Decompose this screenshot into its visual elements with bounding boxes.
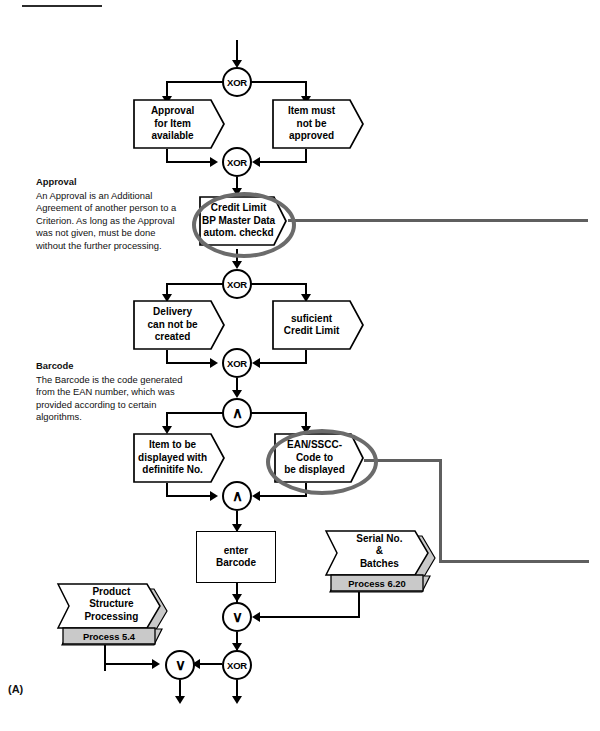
highlight-ellipse-credit-limit — [192, 192, 296, 258]
event-label-line-2: for Item — [154, 118, 191, 129]
flow-line-merge2-left — [166, 362, 214, 364]
function-label-line-1: enter — [224, 545, 248, 556]
annotation-approval: Approval An Approval is an Additional Ag… — [36, 176, 186, 253]
connector-xor-5: XOR — [222, 650, 252, 680]
event-label-line-2: can not be — [148, 319, 198, 330]
connector-xor-1: XOR — [222, 67, 252, 97]
connector-xor-4: XOR — [222, 348, 252, 378]
event-label-line-1: Approval — [151, 105, 194, 116]
annotation-barcode-body: The Barcode is the code generated from t… — [36, 374, 186, 424]
event-delivery-can-not-be-created: Delivery can not be created — [133, 300, 225, 350]
annotation-barcode: Barcode The Barcode is the code generate… — [36, 360, 186, 424]
arrow-merge-right — [252, 157, 260, 167]
function-label-line-2: Barcode — [216, 557, 256, 568]
event-label-line-1: suficient — [291, 313, 332, 324]
pif-label-line-2: & — [376, 545, 383, 556]
connector-or-2: ∨ — [165, 650, 195, 680]
arrow-merge2-right — [252, 358, 260, 368]
flow-line-product-to-or2 — [104, 663, 155, 665]
connector-and-2: ∧ — [222, 481, 252, 511]
process-interface-serial-no-batches: Serial No. & Batches Process 6.20 — [318, 528, 436, 598]
event-item-to-be-displayed: Item to be displayed with definitife No. — [133, 433, 225, 483]
event-label: Item must not be approved — [272, 99, 351, 149]
arrow-merge2-left — [210, 358, 218, 368]
connector-xor-1-label: XOR — [227, 77, 247, 88]
connector-or-1-label: ∨ — [232, 609, 243, 624]
process-interface-label: Serial No. & Batches — [337, 528, 422, 575]
annotation-barcode-heading: Barcode — [36, 360, 186, 373]
cross-reference-line-ean-h2 — [439, 560, 589, 563]
process-interface-process-number: Process 5.4 — [63, 628, 155, 644]
process-interface-label: Product Structure Processing — [69, 581, 154, 628]
connector-and-2-label: ∧ — [232, 488, 243, 503]
top-rule — [22, 5, 102, 7]
event-label-line-2: Credit Limit — [284, 325, 340, 336]
event-label-line-1: Item to be — [149, 439, 196, 450]
arrow-merge-left — [210, 157, 218, 167]
flow-line-merge-left — [166, 161, 214, 163]
flow-line-xor3-right — [250, 283, 307, 285]
corner-label: (A) — [8, 683, 23, 695]
event-label-line-3: created — [155, 331, 191, 342]
flow-line-serial-to-or1 — [259, 616, 360, 618]
connector-xor-2-label: XOR — [227, 157, 247, 168]
event-item-must-not-be-approved: Item must not be approved — [272, 99, 364, 149]
event-label-line-2: not be — [297, 118, 327, 129]
flow-line-merge3-left — [166, 495, 214, 497]
connector-xor-3-label: XOR — [227, 279, 247, 290]
arrow-merge3-left — [210, 491, 218, 501]
pif-label-line-2: Structure — [89, 598, 133, 609]
connector-xor-4-label: XOR — [227, 358, 247, 369]
function-enter-barcode: enter Barcode — [196, 531, 276, 583]
epc-diagram-canvas: Approval An Approval is an Additional Ag… — [0, 0, 600, 731]
event-label-line-3: definitife No. — [142, 464, 203, 475]
flow-line-and1-left — [167, 412, 224, 414]
cross-reference-line-ean-v — [439, 459, 442, 563]
connector-and-1: ∧ — [222, 398, 252, 428]
event-label-line-1: Item must — [288, 105, 335, 116]
arrow-merge3-right — [252, 491, 260, 501]
annotation-approval-heading: Approval — [36, 176, 186, 189]
cross-reference-line-credit-limit — [288, 219, 588, 222]
arrow-serial-to-or1 — [252, 612, 260, 622]
connector-xor-3: XOR — [222, 269, 252, 299]
pif-label-line-3: Processing — [84, 611, 138, 622]
event-label: Approval for Item available — [133, 99, 212, 149]
event-label-line-2: displayed with — [138, 452, 207, 463]
event-label: Delivery can not be created — [133, 300, 212, 350]
connector-and-1-label: ∧ — [232, 405, 243, 420]
arrow-to-xor3 — [232, 261, 242, 269]
flow-line-xor3-left — [167, 283, 224, 285]
flow-line-merge3-right — [259, 495, 307, 497]
event-approval-for-item-available: Approval for Item available — [133, 99, 225, 149]
process-interface-product-structure-processing: Product Structure Processing Process 5.4 — [50, 581, 168, 651]
connector-xor-5-label: XOR — [227, 660, 247, 671]
flow-line-xor1-right — [250, 81, 307, 83]
connector-or-1: ∨ — [222, 602, 252, 632]
flow-line-xor1-left — [167, 81, 224, 83]
highlight-ellipse-ean-sscc — [266, 429, 378, 495]
event-suficient-credit-limit: suficient Credit Limit — [272, 300, 364, 350]
arrow-to-and1 — [232, 390, 242, 398]
flow-line-xor5-to-or2 — [198, 663, 222, 665]
flow-line-merge-right — [259, 161, 307, 163]
pif-label-line-1: Product — [92, 586, 130, 597]
event-label-line-3: available — [151, 130, 193, 141]
process-interface-process-number: Process 6.20 — [331, 575, 423, 591]
flow-line-merge2-right — [259, 362, 307, 364]
connector-xor-2: XOR — [222, 147, 252, 177]
arrow-out-or2 — [175, 696, 185, 704]
event-label-line-1: Delivery — [153, 306, 192, 317]
event-label-line-3: approved — [289, 130, 334, 141]
arrow-out-xor5 — [232, 696, 242, 704]
arrow-to-or1 — [232, 594, 242, 602]
annotation-approval-body: An Approval is an Additional Agreement o… — [36, 190, 186, 253]
arrow-product-to-or2 — [152, 659, 160, 669]
connector-or-2-label: ∨ — [175, 657, 186, 672]
event-label: suficient Credit Limit — [272, 300, 351, 350]
flow-line-and1-right — [250, 412, 307, 414]
pif-label-line-3: Batches — [360, 558, 399, 569]
event-label: Item to be displayed with definitife No. — [133, 433, 212, 483]
pif-label-line-1: Serial No. — [356, 533, 402, 544]
